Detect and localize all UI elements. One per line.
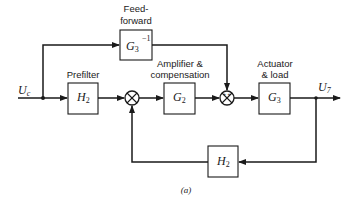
- feedforward-block: Feed- forward G3 −1: [120, 3, 152, 60]
- prefilter-label: Prefilter: [67, 69, 100, 80]
- summing-junction-1: [125, 91, 139, 105]
- svg-text:+: +: [223, 91, 226, 97]
- svg-text:+: +: [228, 91, 231, 97]
- amplifier-block: Amplifier & compensation G2: [150, 58, 209, 114]
- svg-text:Uc: Uc: [18, 83, 31, 98]
- prefilter-block: Prefilter H2: [67, 69, 100, 114]
- input-signal-label: Uc: [18, 83, 31, 98]
- amplifier-label-line1: Amplifier &: [157, 58, 204, 69]
- svg-text:U7: U7: [318, 80, 332, 95]
- feedforward-label-line2: forward: [120, 15, 152, 26]
- actuator-label-line1: Actuator: [257, 58, 292, 69]
- block-diagram: Uc Feed- forward G3 −1 Prefilter H2 Ampl…: [0, 0, 358, 214]
- feedforward-label-line1: Feed-: [124, 3, 149, 14]
- output-signal-label: U7: [318, 80, 332, 95]
- svg-text:−1: −1: [142, 34, 151, 43]
- amplifier-label-line2: compensation: [150, 69, 209, 80]
- actuator-block: Actuator & load G3: [257, 58, 292, 114]
- figure-caption: (a): [181, 185, 192, 195]
- actuator-label-line2: & load: [262, 69, 289, 80]
- feedback-block: H2: [208, 146, 238, 177]
- summing-junction-2: + +: [220, 91, 234, 105]
